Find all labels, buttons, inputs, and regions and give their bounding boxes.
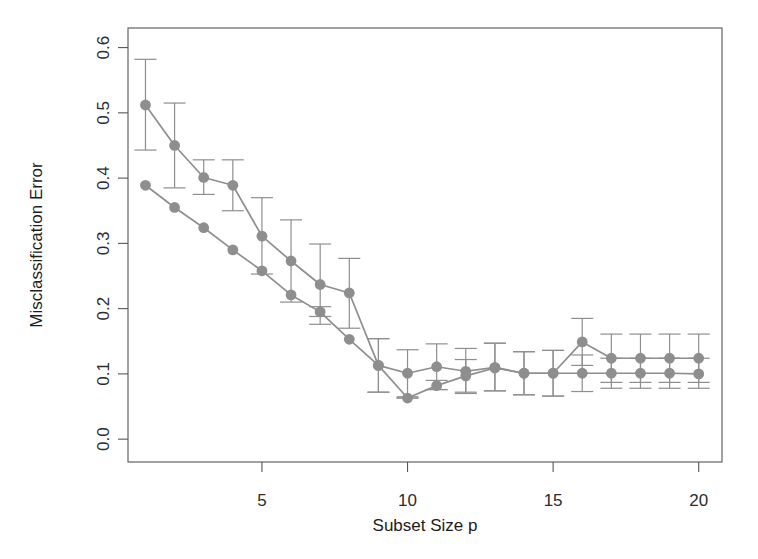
data-point [198, 222, 209, 233]
x-axis-tick-label: 15 [544, 491, 563, 510]
data-point [635, 368, 646, 379]
axis-tick-marks [118, 48, 699, 472]
misclassification-error-plot: 0.00.10.20.30.40.50.65101520 Misclassifi… [0, 0, 758, 559]
data-point [286, 290, 297, 301]
data-point [227, 244, 238, 255]
data-point [169, 140, 180, 151]
data-point [140, 180, 151, 191]
data-point [402, 393, 413, 404]
data-point [169, 202, 180, 213]
data-point [606, 368, 617, 379]
data-point [344, 334, 355, 345]
data-point [198, 172, 209, 183]
data-point [402, 368, 413, 379]
data-point [315, 306, 326, 317]
data-point [460, 370, 471, 381]
data-point [664, 368, 675, 379]
chart-figure: 0.00.10.20.30.40.50.65101520 Misclassifi… [0, 0, 758, 559]
data-point [140, 100, 151, 111]
data-point [577, 368, 588, 379]
data-point [577, 337, 588, 348]
x-axis-title: Subset Size p [373, 516, 478, 535]
plot-frame [128, 28, 722, 462]
y-axis-tick-label: 0.2 [95, 297, 114, 321]
data-point [257, 231, 268, 242]
y-axis-tick-label: 0.5 [95, 101, 114, 125]
data-point [606, 353, 617, 364]
series-line-lower-curve [145, 185, 698, 398]
y-axis-tick-label: 0.0 [95, 427, 114, 451]
y-axis-tick-label: 0.3 [95, 232, 114, 256]
data-point [257, 265, 268, 276]
error-bars-group [134, 59, 709, 398]
data-point [227, 180, 238, 191]
y-axis-tick-label: 0.4 [95, 166, 114, 190]
y-axis-tick-label: 0.1 [95, 362, 114, 386]
data-point [519, 368, 530, 379]
data-point [693, 368, 704, 379]
data-point [286, 256, 297, 267]
data-point [431, 361, 442, 372]
axis-tick-labels: 0.00.10.20.30.40.50.65101520 [95, 36, 709, 510]
data-point [548, 368, 559, 379]
series-line-upper-curve [145, 105, 698, 373]
x-axis-tick-label: 5 [257, 491, 266, 510]
data-point [635, 353, 646, 364]
y-axis-title: Misclassification Error [27, 162, 46, 328]
x-axis-tick-label: 10 [398, 491, 417, 510]
y-axis-tick-label: 0.6 [95, 36, 114, 60]
data-point [344, 288, 355, 299]
data-point [431, 380, 442, 391]
data-point [693, 353, 704, 364]
data-point [373, 360, 384, 371]
x-axis-tick-label: 20 [689, 491, 708, 510]
plot-box-border [128, 28, 722, 462]
data-point [489, 363, 500, 374]
data-point [315, 279, 326, 290]
data-point [664, 353, 675, 364]
